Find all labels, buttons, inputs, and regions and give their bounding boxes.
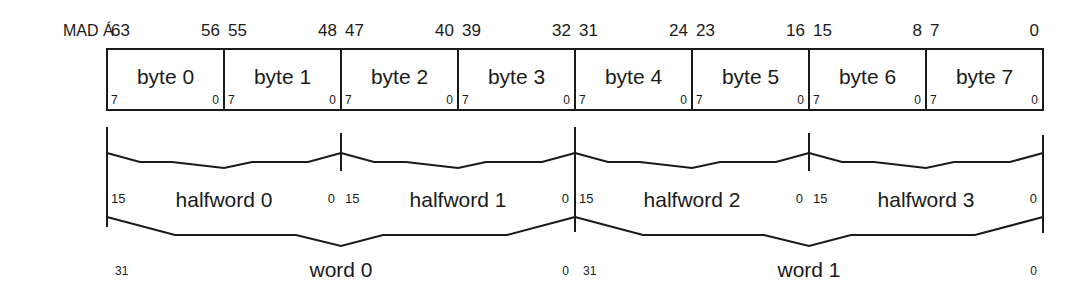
byte-inner-high-bit: 7 [930,94,937,106]
byte-label: byte 0 [137,66,194,87]
byte-inner-high-bit: 7 [345,94,352,106]
word-label: word 1 [777,259,840,280]
halfword-label: halfword 1 [410,189,507,210]
byte-inner-low-bit: 0 [212,94,219,106]
prefix-label: MAD Á [63,23,114,39]
word-brace [107,217,575,246]
halfword-high-bit-number: 15 [813,192,827,205]
word-label: word 0 [309,259,372,280]
byte-inner-low-bit: 0 [563,94,570,106]
byte-low-bit-number: 24 [669,22,688,39]
byte-high-bit-number: 7 [930,22,939,39]
halfword-low-bit-number: 0 [796,192,803,205]
word-high-bit-number: 31 [583,265,596,277]
halfword-high-bit-number: 15 [345,192,359,205]
byte-inner-high-bit: 7 [462,94,469,106]
word-low-bit-number: 0 [562,265,569,277]
byte-inner-low-bit: 0 [680,94,687,106]
byte-low-bit-number: 0 [1030,22,1039,39]
byte-high-bit-number: 31 [579,22,598,39]
byte-inner-high-bit: 7 [579,94,586,106]
halfword-brace [575,153,809,168]
word-high-bit-number: 31 [115,265,128,277]
halfword-high-bit-number: 15 [111,192,125,205]
byte-inner-low-bit: 0 [914,94,921,106]
halfword-label: halfword 2 [644,189,741,210]
byte-high-bit-number: 15 [813,22,832,39]
halfword-high-bit-number: 15 [579,192,593,205]
byte-low-bit-number: 32 [552,22,571,39]
halfword-brace [341,153,575,168]
byte-inner-low-bit: 0 [329,94,336,106]
byte-inner-high-bit: 7 [696,94,703,106]
halfword-label: halfword 3 [878,189,975,210]
byte-label: byte 3 [488,66,545,87]
byte-high-bit-number: 47 [345,22,364,39]
byte-high-bit-number: 39 [462,22,481,39]
diagram-lines [0,0,1083,299]
halfword-brace [107,153,341,168]
byte-label: byte 1 [254,66,311,87]
byte-label: byte 7 [956,66,1013,87]
byte-low-bit-number: 48 [318,22,337,39]
halfword-brace [809,153,1043,168]
word-brace [575,217,1043,246]
byte-label: byte 5 [722,66,779,87]
byte-inner-low-bit: 0 [1031,94,1038,106]
byte-inner-low-bit: 0 [797,94,804,106]
byte-inner-high-bit: 7 [813,94,820,106]
byte-label: byte 4 [605,66,662,87]
byte-inner-high-bit: 7 [228,94,235,106]
byte-high-bit-number: 55 [228,22,247,39]
byte-high-bit-number: 63 [111,22,130,39]
byte-inner-high-bit: 7 [111,94,118,106]
halfword-low-bit-number: 0 [328,192,335,205]
byte-label: byte 6 [839,66,896,87]
byte-low-bit-number: 40 [435,22,454,39]
halfword-low-bit-number: 0 [1030,192,1037,205]
halfword-low-bit-number: 0 [562,192,569,205]
halfword-label: halfword 0 [176,189,273,210]
word-low-bit-number: 0 [1030,265,1037,277]
byte-label: byte 2 [371,66,428,87]
byte-inner-low-bit: 0 [446,94,453,106]
byte-low-bit-number: 16 [786,22,805,39]
byte-low-bit-number: 8 [913,22,922,39]
byte-high-bit-number: 23 [696,22,715,39]
byte-low-bit-number: 56 [201,22,220,39]
